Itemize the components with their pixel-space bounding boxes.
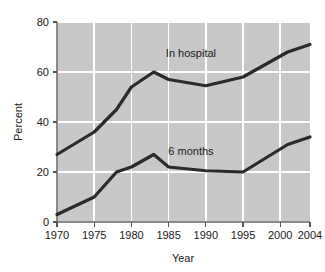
x-tick-label: 2004 <box>298 229 322 241</box>
y-axis-title: Percent <box>12 103 24 141</box>
x-tick-label: 1975 <box>82 229 106 241</box>
x-tick-label: 1980 <box>119 229 143 241</box>
x-axis-title: Year <box>172 252 195 264</box>
y-tick-label: 60 <box>37 66 49 78</box>
y-tick-label: 40 <box>37 116 49 128</box>
series-label: In hospital <box>166 47 216 59</box>
series-label: 6 months <box>168 145 214 157</box>
x-tick-label: 1985 <box>156 229 180 241</box>
y-tick-label: 20 <box>37 166 49 178</box>
x-tick-label: 1990 <box>194 229 218 241</box>
x-tick-label: 1970 <box>45 229 69 241</box>
x-tick-label: 1995 <box>231 229 255 241</box>
line-chart: 020406080 197019751980198519901995200020… <box>0 0 325 272</box>
y-tick-label: 80 <box>37 16 49 28</box>
x-tick-label: 2000 <box>268 229 292 241</box>
y-tick-label: 0 <box>43 216 49 228</box>
chart-figure: 020406080 197019751980198519901995200020… <box>0 0 325 272</box>
